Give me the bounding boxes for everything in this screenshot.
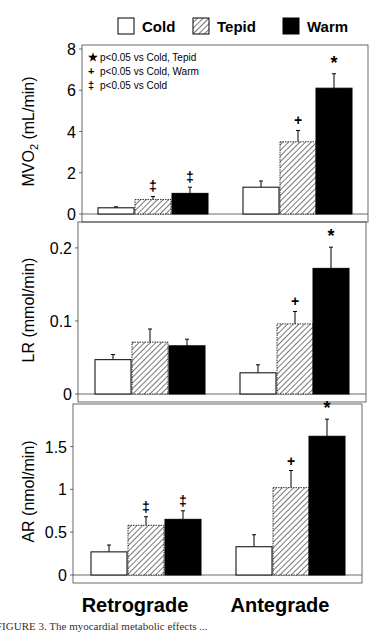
panel-1: 02468MVO2 (mL/min)‡+‡*★p<0.05 vs Cold, T… bbox=[20, 41, 368, 223]
bar bbox=[277, 324, 313, 394]
bar bbox=[169, 346, 205, 394]
key-symbol: ‡ bbox=[88, 79, 94, 91]
significance-mark: ‡ bbox=[186, 169, 194, 185]
legend-item-tepid: Tepid bbox=[193, 18, 256, 35]
bar-cold-retrograde bbox=[98, 207, 134, 214]
bar bbox=[280, 142, 316, 214]
y-tick-label: 0 bbox=[63, 386, 72, 403]
bar bbox=[243, 187, 279, 214]
legend-item-cold: Cold bbox=[118, 18, 175, 35]
panel-3: 00.511.5AR (nmol/min)‡+‡* bbox=[20, 398, 362, 584]
significance-key: ★p<0.05 vs Cold, Tepid+p<0.05 vs Cold, W… bbox=[88, 51, 199, 91]
y-tick-label: 0.1 bbox=[50, 313, 72, 330]
bar bbox=[128, 525, 164, 575]
bar bbox=[91, 552, 127, 575]
figure-caption: FIGURE 3. The myocardial metabolic effec… bbox=[0, 620, 208, 632]
significance-mark: + bbox=[294, 112, 302, 128]
bar bbox=[273, 488, 309, 575]
bar-cold-retrograde bbox=[91, 545, 127, 575]
key-text: p<0.05 vs Cold bbox=[100, 80, 167, 91]
bar-tepid-antegrade: + bbox=[280, 112, 316, 214]
y-tick-label: 6 bbox=[67, 82, 76, 99]
x-axis-category-labels: RetrogradeAntegrade bbox=[82, 594, 330, 616]
bar bbox=[135, 200, 171, 214]
key-symbol: + bbox=[88, 65, 94, 77]
bar bbox=[165, 519, 201, 575]
panel-2: 00.10.2LR (mmol/min)+* bbox=[20, 222, 366, 403]
y-axis-label: MVO2 (mL/min) bbox=[20, 76, 40, 186]
bar-warm-antegrade: * bbox=[316, 53, 352, 214]
significance-mark: ‡ bbox=[179, 493, 187, 509]
bar-tepid-antegrade: + bbox=[277, 293, 313, 394]
bar bbox=[316, 88, 352, 214]
significance-mark: * bbox=[323, 398, 330, 418]
y-axis-label: LR (mmol/min) bbox=[20, 258, 37, 363]
y-tick-label: 0.2 bbox=[50, 240, 72, 257]
legend-swatch bbox=[193, 18, 209, 34]
legend-label: Tepid bbox=[217, 18, 256, 35]
legend-swatch bbox=[283, 18, 299, 34]
bar-cold-retrograde bbox=[95, 355, 131, 394]
y-tick-label: 0 bbox=[58, 567, 67, 584]
bar-cold-antegrade bbox=[243, 181, 279, 214]
legend: ColdTepidWarm bbox=[118, 18, 348, 35]
bar bbox=[313, 268, 349, 394]
significance-mark: ‡ bbox=[149, 178, 157, 194]
y-tick-label: 0 bbox=[67, 206, 76, 223]
bar-tepid-retrograde: ‡ bbox=[135, 178, 171, 214]
legend-item-warm: Warm bbox=[283, 18, 348, 35]
bar-warm-retrograde bbox=[169, 339, 205, 394]
bar bbox=[172, 193, 208, 214]
bar-cold-antegrade bbox=[240, 365, 276, 394]
significance-mark: * bbox=[327, 226, 334, 246]
y-tick-label: 4 bbox=[67, 124, 76, 141]
bar-tepid-retrograde: ‡ bbox=[128, 499, 164, 575]
y-tick-label: 8 bbox=[67, 41, 76, 58]
bar-tepid-retrograde bbox=[132, 329, 168, 394]
bar-tepid-antegrade: + bbox=[273, 453, 309, 575]
significance-mark: * bbox=[330, 53, 337, 73]
bar-warm-antegrade: * bbox=[309, 398, 345, 575]
y-tick-label: 1.5 bbox=[45, 439, 67, 456]
figure: ColdTepidWarm 02468MVO2 (mL/min)‡+‡*★p<0… bbox=[0, 0, 386, 632]
bar-warm-retrograde: ‡ bbox=[172, 169, 208, 214]
y-tick-label: 0.5 bbox=[45, 524, 67, 541]
bar bbox=[95, 360, 131, 394]
y-axis-label: AR (nmol/min) bbox=[20, 440, 37, 542]
bar bbox=[132, 342, 168, 394]
key-text: p<0.05 vs Cold, Tepid bbox=[100, 52, 196, 63]
bar-warm-retrograde: ‡ bbox=[165, 493, 201, 575]
bar-warm-antegrade: * bbox=[313, 226, 349, 394]
x-category-retrograde: Retrograde bbox=[82, 594, 189, 616]
y-tick-label: 2 bbox=[67, 165, 76, 182]
bar bbox=[236, 547, 272, 575]
bar-cold-antegrade bbox=[236, 535, 272, 575]
bar bbox=[98, 208, 134, 214]
legend-label: Cold bbox=[142, 18, 175, 35]
significance-mark: ‡ bbox=[142, 499, 150, 515]
significance-mark: + bbox=[287, 453, 295, 469]
legend-swatch bbox=[118, 18, 134, 34]
y-tick-label: 1 bbox=[58, 481, 67, 498]
legend-label: Warm bbox=[307, 18, 348, 35]
significance-mark: + bbox=[291, 293, 299, 309]
bar bbox=[309, 436, 345, 575]
key-symbol: ★ bbox=[88, 51, 98, 63]
key-text: p<0.05 vs Cold, Warm bbox=[100, 66, 199, 77]
bar bbox=[240, 373, 276, 394]
x-category-antegrade: Antegrade bbox=[231, 594, 330, 616]
